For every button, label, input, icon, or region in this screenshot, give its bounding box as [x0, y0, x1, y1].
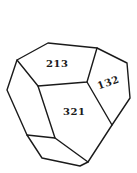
- crystal-drawing: [0, 0, 137, 173]
- face-label-213: 213: [46, 58, 68, 69]
- face-label-321: 321: [63, 106, 85, 117]
- edge-center-left: [38, 86, 55, 138]
